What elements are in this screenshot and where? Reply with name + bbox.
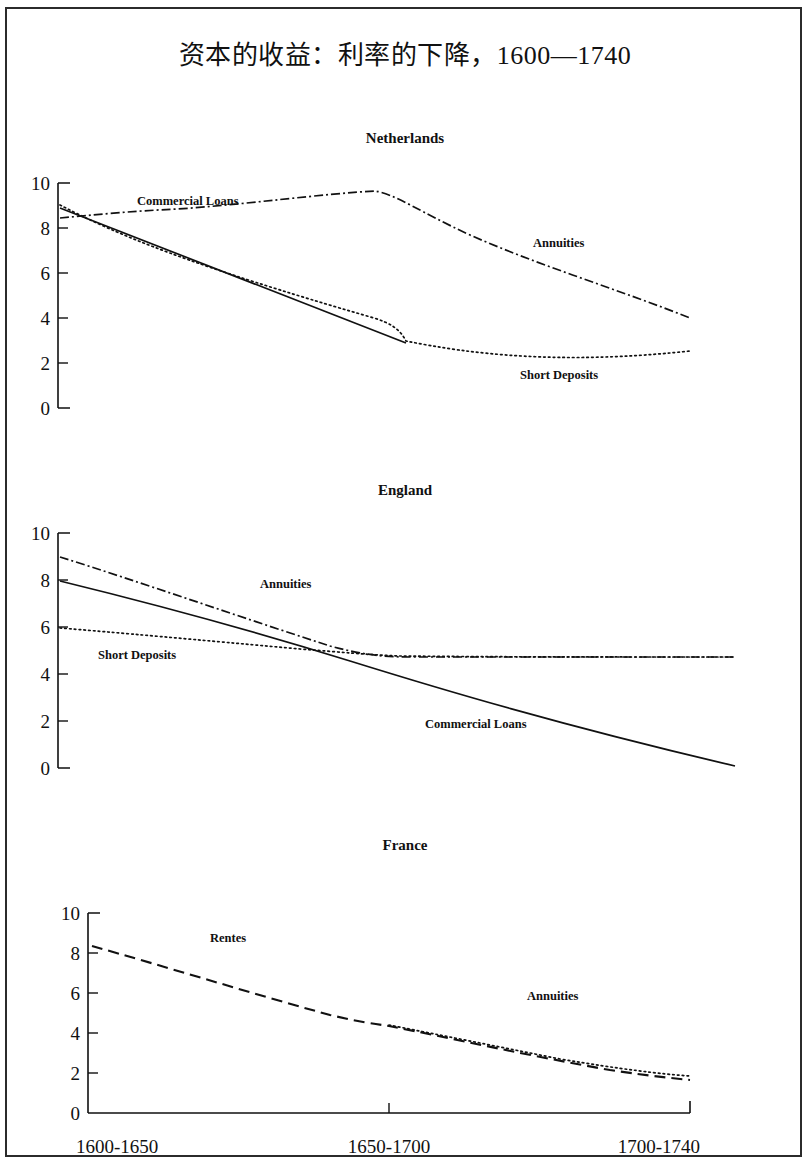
chart-france: 10 8 6 4 2 0 Rentes Annuities 1600-1650 … [0,865,810,1161]
series-label-commercial-loans: Commercial Loans [137,194,239,208]
series-label-annuities: Annuities [260,577,312,591]
panel-title-netherlands: Netherlands [0,130,810,147]
series-france-annuities [389,1025,690,1076]
series-france-rentes [92,946,690,1080]
x-tick-label-1600-1650: 1600-1650 [76,1136,158,1157]
panel-england: England 10 8 6 4 2 0 Annuities Short Dep… [0,470,810,790]
chart-england: 10 8 6 4 2 0 Annuities Short Deposits Co… [0,510,810,790]
y-tick-label-2: 2 [41,711,51,732]
y-tick-label-10: 10 [61,903,80,924]
y-tick-label-6: 6 [41,263,51,284]
y-tick-label-6: 6 [41,617,51,638]
y-axis-england [58,533,70,768]
series-label-annuities: Annuities [527,989,579,1003]
y-tick-label-4: 4 [41,308,51,329]
series-netherlands-annuities [60,191,690,318]
series-label-short-deposits: Short Deposits [520,368,598,382]
series-netherlands-short-deposits [60,205,690,358]
series-netherlands-commercial-loans [60,208,406,343]
panel-netherlands: Netherlands 10 8 6 4 2 0 Commercial Loan… [0,0,810,330]
series-label-short-deposits: Short Deposits [98,648,176,662]
y-tick-label-4: 4 [41,664,51,685]
series-label-commercial-loans: Commercial Loans [425,717,527,731]
y-tick-label-0: 0 [71,1103,81,1124]
x-tick-label-1700-1740: 1700-1740 [618,1136,700,1157]
y-tick-label-10: 10 [31,173,50,194]
series-england-commercial-loans [60,581,735,766]
y-tick-label-8: 8 [41,218,51,239]
chart-netherlands: 10 8 6 4 2 0 Commercial Loans Annuities … [0,160,810,430]
panel-title-france: France [0,837,810,854]
y-tick-label-0: 0 [41,758,51,779]
x-tick-label-1650-1700: 1650-1700 [348,1136,430,1157]
y-tick-label-6: 6 [71,983,81,1004]
y-tick-label-8: 8 [71,943,81,964]
y-tick-label-8: 8 [41,570,51,591]
y-tick-label-2: 2 [41,353,51,374]
series-label-annuities: Annuities [533,236,585,250]
panel-title-england: England [0,482,810,499]
y-tick-label-10: 10 [31,523,50,544]
y-tick-label-2: 2 [71,1063,81,1084]
axes-france [88,913,690,1113]
panel-france: France 10 8 6 4 2 0 Rentes Annuities 160… [0,825,810,1161]
y-tick-label-0: 0 [41,398,51,419]
y-tick-label-4: 4 [71,1023,81,1044]
series-label-rentes: Rentes [210,931,246,945]
figure-page: 资本的收益：利率的下降，1600—1740 Netherlands 10 8 6… [0,0,810,1161]
